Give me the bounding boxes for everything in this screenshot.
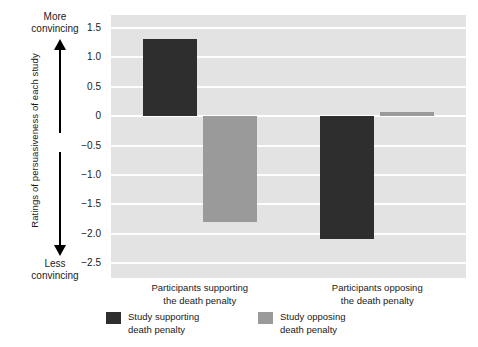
gridline: [111, 174, 466, 176]
legend-swatch-icon: [106, 312, 121, 324]
plot-area: [111, 15, 466, 278]
gridline: [111, 262, 466, 264]
bar: [143, 39, 197, 117]
chart-legend: Study supportingdeath penaltyStudy oppos…: [106, 311, 406, 341]
gridline: [111, 145, 466, 147]
x-axis-category-label: Participants supportingthe death penalty: [120, 282, 280, 307]
y-axis-tick-label: −2.0: [81, 229, 101, 239]
legend-item[interactable]: Study opposingdeath penalty: [258, 311, 346, 336]
y-axis-tick-labels: 1.51.00.50−0.5−1.0−1.5−2.0−2.5: [0, 15, 107, 278]
y-axis-tick-label: −0.5: [81, 141, 101, 151]
x-axis-category-label: Participants opposingthe death penalty: [297, 282, 457, 307]
bar: [203, 116, 257, 222]
y-axis-tick-label: −1.5: [81, 199, 101, 209]
y-axis-tick-label: 1.5: [87, 23, 101, 33]
legend-label: Study supportingdeath penalty: [128, 311, 199, 336]
gridline: [111, 233, 466, 235]
gridline: [111, 27, 466, 29]
legend-item[interactable]: Study supportingdeath penalty: [106, 311, 199, 336]
x-axis-category-labels: Participants supportingthe death penalty…: [111, 282, 466, 312]
y-axis-tick-label: 1.0: [87, 52, 101, 62]
y-axis-tick-label: −2.5: [81, 258, 101, 268]
legend-swatch-icon: [258, 312, 273, 324]
legend-label: Study opposingdeath penalty: [280, 311, 346, 336]
y-axis-tick-label: 0.5: [87, 82, 101, 92]
bar: [380, 112, 434, 116]
bar: [320, 116, 374, 238]
y-axis-tick-label: −1.0: [81, 170, 101, 180]
gridline: [111, 203, 466, 205]
y-axis-tick-label: 0: [95, 111, 101, 121]
